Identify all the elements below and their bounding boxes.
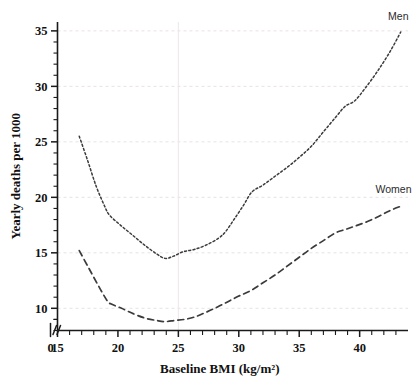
y-axis-tick-labels: 101520253035 <box>35 24 48 315</box>
y-tick-label: 10 <box>35 302 48 316</box>
series-line-women <box>79 206 400 321</box>
x-tick-label: 40 <box>353 341 366 355</box>
y-tick-label: 20 <box>35 191 48 205</box>
x-tick-label: 30 <box>233 341 246 355</box>
x-axis-tick-labels: 0152025303540 <box>47 341 366 355</box>
series-label-women: Women <box>375 183 411 195</box>
series-line-men <box>79 32 400 258</box>
x-axis-title: Baseline BMI (kg/m²) <box>160 361 279 376</box>
series-label-men: Men <box>388 10 409 22</box>
data-series <box>79 32 400 322</box>
grid-lines <box>58 31 409 308</box>
y-axis-ticks <box>51 31 58 331</box>
y-tick-label: 25 <box>35 135 48 149</box>
x-tick-label: 25 <box>172 341 185 355</box>
x-tick-label: 15 <box>51 341 64 355</box>
y-axis: 101520253035 <box>35 22 58 331</box>
y-axis-title: Yearly deaths per 1000 <box>8 113 23 240</box>
x-axis-ticks <box>58 331 396 338</box>
x-axis: 0152025303540 <box>47 324 408 355</box>
bmi-mortality-line-chart: 101520253035 0152025303540 Men Women Bas… <box>0 0 420 388</box>
y-tick-label: 30 <box>35 80 48 94</box>
y-tick-label: 15 <box>35 246 48 260</box>
x-tick-label: 35 <box>293 341 306 355</box>
y-tick-label: 35 <box>35 24 48 38</box>
axis-break-mark <box>51 324 61 337</box>
chart-container: 101520253035 0152025303540 Men Women Bas… <box>0 0 420 388</box>
x-tick-label: 20 <box>112 341 125 355</box>
